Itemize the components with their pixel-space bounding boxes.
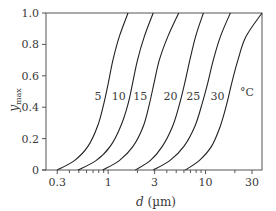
temperature-curves <box>57 13 262 170</box>
y-tick-label: 1.0 <box>22 7 40 20</box>
y-tick-label: 0 <box>32 164 39 177</box>
chart: 0.3131030 00.20.40.60.81.0 51015202530 °… <box>0 0 276 211</box>
unit-label: °C <box>240 86 254 99</box>
x-tick-label: 0.3 <box>48 176 66 189</box>
y-axis-subscript: max <box>14 88 23 105</box>
y-axis-label: ymax <box>7 88 23 113</box>
curve-label-20: 20 <box>164 90 178 103</box>
x-tick-label: 10 <box>199 176 213 189</box>
x-axis-unit: (µm) <box>144 195 176 209</box>
x-tick-label: 3 <box>151 176 158 189</box>
curve-label-25: 25 <box>186 90 200 103</box>
curve-label-15: 15 <box>133 90 147 103</box>
curve-label-10: 10 <box>112 90 126 103</box>
x-axis-ticks: 0.3131030 <box>42 170 259 189</box>
x-axis-label: d (µm) <box>136 195 176 209</box>
curve-label-5: 5 <box>95 90 102 103</box>
y-axis-ticks: 00.20.40.60.81.0 <box>22 7 47 177</box>
y-tick-label: 0.8 <box>22 38 40 51</box>
curve-label-30: 30 <box>211 90 225 103</box>
x-tick-label: 1 <box>105 176 112 189</box>
y-tick-label: 0.4 <box>22 101 40 114</box>
x-tick-label: 30 <box>245 176 259 189</box>
y-tick-label: 0.6 <box>22 70 40 83</box>
y-tick-label: 0.2 <box>22 133 40 146</box>
